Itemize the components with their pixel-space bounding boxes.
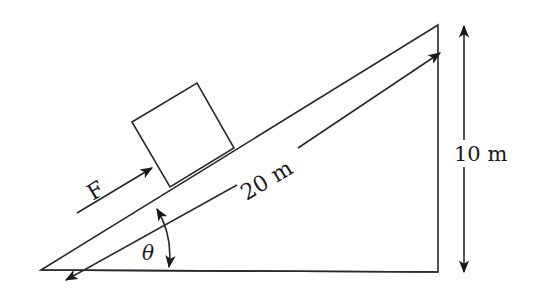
height-label: 10 m — [454, 142, 507, 166]
incline-base — [41, 270, 438, 272]
incline-triangle — [41, 25, 438, 272]
angle-label: θ — [142, 241, 154, 265]
angle-arc — [157, 209, 170, 267]
length-label: 20 m — [236, 155, 297, 205]
incline-diagram: F 20 m 10 m θ — [0, 0, 541, 297]
force-label: F — [82, 176, 108, 205]
